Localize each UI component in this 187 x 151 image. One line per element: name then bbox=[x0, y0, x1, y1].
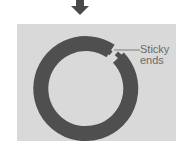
down-arrow-icon bbox=[71, 0, 89, 15]
label-line-2: ends bbox=[140, 55, 169, 66]
diagram-canvas bbox=[0, 0, 187, 151]
sticky-ends-label: Sticky ends bbox=[140, 44, 169, 66]
diagram: Sticky ends bbox=[0, 0, 187, 151]
